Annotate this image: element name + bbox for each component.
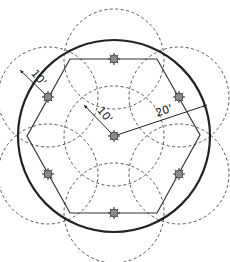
sprinkler-icon-top bbox=[108, 53, 120, 65]
sprinkler-icon-bottom bbox=[108, 207, 120, 219]
sprinkler-icon-center bbox=[108, 130, 120, 142]
dimension-2: 20' bbox=[114, 102, 207, 136]
sprinkler-layout-diagram: 10'10'20' bbox=[0, 0, 230, 262]
dimension-label: 10' bbox=[94, 104, 115, 125]
sprinkler-icon-upper-right bbox=[173, 91, 185, 103]
dimension-1: 10' bbox=[84, 104, 115, 136]
sprinkler-icon-lower-right bbox=[173, 168, 185, 180]
sprinkler-icon-lower-left bbox=[42, 168, 54, 180]
sprinkler-icon-upper-left bbox=[42, 91, 54, 103]
dimension-0: 10' bbox=[20, 67, 49, 97]
